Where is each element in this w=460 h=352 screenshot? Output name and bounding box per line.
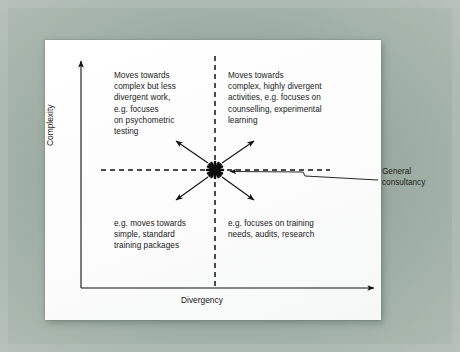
arrow-to-top-right xyxy=(222,141,254,163)
figure-root: Moves towards complex but less divergent… xyxy=(0,0,460,352)
arrow-to-bottom-left xyxy=(176,177,208,200)
starburst-hub-icon xyxy=(207,162,223,178)
quadrant-label-bottom-right: e.g. focuses on training needs, audits, … xyxy=(228,218,346,240)
callout-leader-line xyxy=(230,172,378,181)
y-axis-label: Complexity xyxy=(45,105,55,146)
quadrant-label-top-left: Moves towards complex but less divergent… xyxy=(114,70,218,137)
x-axis-label: Divergency xyxy=(181,295,223,305)
arrow-to-bottom-right xyxy=(222,177,254,200)
arrow-to-top-left xyxy=(176,141,208,163)
quadrant-label-bottom-left: e.g. moves towards simple, standard trai… xyxy=(114,218,222,252)
general-consultancy-callout-label: General consultancy xyxy=(382,166,454,188)
quadrant-label-top-right: Moves towards complex, highly divergent … xyxy=(228,70,352,126)
